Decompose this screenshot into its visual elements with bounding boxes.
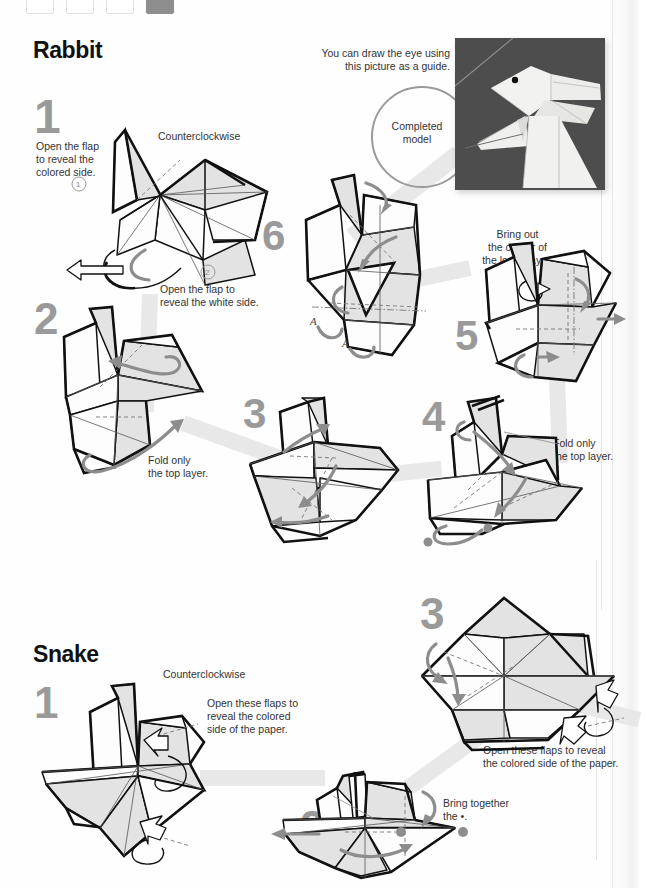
chapter-color-tabs bbox=[26, 0, 174, 14]
section-title-snake: Snake bbox=[33, 641, 99, 668]
diagram-rabbit-step-3 bbox=[232, 398, 412, 548]
diagram-rabbit-step-2 bbox=[50, 305, 230, 485]
diagram-rabbit-step-4 bbox=[408, 394, 603, 549]
diagram-rabbit-step-5 bbox=[480, 245, 630, 390]
marker-circled-1: 1 bbox=[76, 180, 81, 189]
caption-line: You can draw the eye using bbox=[310, 47, 450, 60]
chapter-tab-3[interactable] bbox=[106, 0, 134, 14]
completed-model-photo bbox=[455, 38, 605, 190]
diagram-snake-step-3 bbox=[428, 592, 628, 752]
marker-circled-2: 2 bbox=[205, 268, 210, 277]
step-number-rabbit-1: 1 bbox=[34, 93, 59, 141]
caption-line: Bring out bbox=[470, 228, 565, 241]
diagram-rabbit-step-6: A A bbox=[296, 175, 456, 360]
diagram-rabbit-step-1: 1 2 bbox=[85, 100, 285, 300]
caption-line: this picture as a guide. bbox=[310, 60, 450, 73]
caption-line: model bbox=[371, 133, 463, 146]
step-number-rabbit-5: 5 bbox=[455, 315, 476, 357]
completed-model-label: Completed model bbox=[371, 120, 463, 146]
step-number-rabbit-6: 6 bbox=[262, 215, 283, 257]
caption-line: the colored side of the paper. bbox=[483, 757, 646, 770]
caption-photo-note: You can draw the eye using this picture … bbox=[310, 47, 450, 73]
chapter-tab-2[interactable] bbox=[66, 0, 94, 14]
marker-letter-a-2: A bbox=[341, 337, 349, 349]
marker-letter-a-1: A bbox=[309, 315, 317, 327]
section-title-rabbit: Rabbit bbox=[33, 37, 102, 64]
chapter-tab-1[interactable] bbox=[26, 0, 54, 14]
diagram-snake-step-1 bbox=[40, 680, 230, 860]
chapter-tab-4-active[interactable] bbox=[146, 0, 174, 14]
caption-line: Completed bbox=[371, 120, 463, 133]
